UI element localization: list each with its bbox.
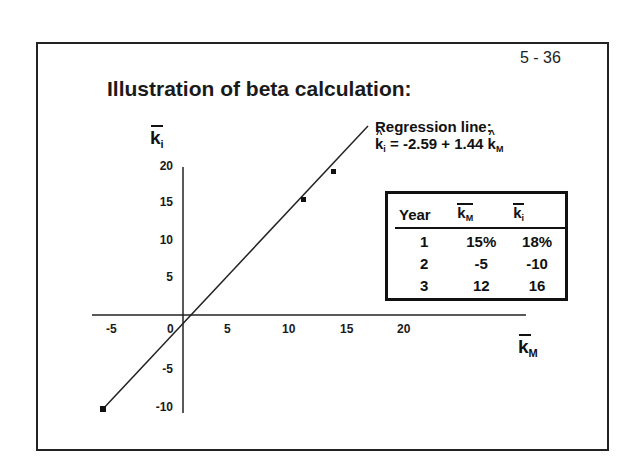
data-point-year-3 [301,197,306,202]
y-tick-20: 20 [143,159,173,173]
cell-year: 3 [395,273,453,295]
table-row: 2 -5 -10 [395,251,565,273]
header-year: Year [395,203,453,228]
y-tick-5: 5 [143,270,173,284]
x-tick-10: 10 [282,322,295,336]
table-row: 1 15% 18% [395,228,565,251]
x-tick-5: 5 [224,322,231,336]
header-stock-return: ki [509,203,565,228]
regression-equation: ki = -2.59 + 1.44 kM [375,135,503,158]
y-tick-neg5: -5 [143,362,173,376]
cell-stock-return: 18% [509,228,565,251]
cell-market-return: 15% [453,228,509,251]
cell-market-return: 12 [453,273,509,295]
cell-market-return: -5 [453,251,509,273]
cell-year: 2 [395,251,453,273]
table-header-row: Year kM ki [395,203,565,228]
y-axis-label: ki [150,127,164,150]
regression-annotation: Regression line: ki = -2.59 + 1.44 kM [375,118,503,158]
y-tick-10: 10 [143,233,173,247]
cell-stock-return: 16 [509,273,565,295]
x-tick-15: 15 [340,322,353,336]
x-tick-neg5: -5 [106,322,117,336]
y-tick-15: 15 [143,195,173,209]
header-market-return: kM [453,203,509,228]
regression-title: Regression line: [375,118,503,135]
x-axis-label: kM [518,336,538,359]
x-tick-20: 20 [397,322,410,336]
y-tick-neg10: -10 [143,400,173,414]
x-tick-0: 0 [167,322,174,336]
returns-table: Year kM ki 1 15% 18% 2 -5 -10 3 12 16 [385,191,568,301]
cell-year: 1 [395,228,453,251]
regression-line [102,126,368,410]
cell-stock-return: -10 [509,251,565,273]
data-point-year-1 [331,169,336,174]
data-point-year-2 [100,406,106,412]
table-row: 3 12 16 [395,273,565,295]
